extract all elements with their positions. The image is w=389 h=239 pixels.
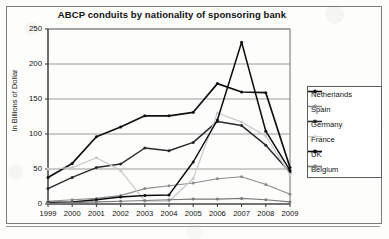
data-point: [119, 169, 122, 172]
data-point: [143, 187, 146, 190]
data-point: [143, 194, 146, 197]
data-point: [192, 161, 195, 164]
data-point: [168, 149, 171, 152]
data-point: [192, 182, 195, 185]
legend-item-netherlands[interactable]: Netherlands: [308, 87, 381, 102]
series-line-spain: [48, 177, 290, 202]
data-point: [264, 198, 267, 201]
data-point: [264, 91, 267, 94]
data-point: [71, 176, 74, 179]
data-point: [240, 121, 243, 124]
data-point: [264, 183, 267, 186]
legend-marker-circle-icon: [308, 162, 322, 171]
data-point: [47, 176, 50, 179]
data-point: [240, 124, 243, 127]
data-point: [95, 135, 98, 138]
legend-marker-square-icon: [308, 102, 322, 111]
data-point: [240, 41, 243, 44]
data-point: [289, 169, 292, 172]
data-point: [289, 193, 292, 196]
data-point: [289, 200, 292, 203]
data-point: [240, 197, 243, 200]
chart-legend: NetherlandsSpainGermanyFranceUKBelgium: [307, 86, 382, 178]
legend-item-uk[interactable]: UK: [308, 147, 381, 162]
data-point: [47, 168, 50, 171]
data-point: [71, 201, 74, 204]
data-point: [289, 173, 292, 176]
legend-marker-diamond-icon: [308, 87, 322, 96]
data-point: [240, 91, 243, 94]
data-point: [71, 166, 74, 169]
data-point: [95, 200, 98, 203]
legend-item-belgium[interactable]: Belgium: [308, 162, 381, 177]
data-point: [119, 200, 122, 203]
data-point: [192, 177, 195, 180]
data-point: [240, 175, 243, 178]
data-point: [47, 187, 50, 190]
chart-screenshot: ABCP conduits by nationality of sponsori…: [0, 0, 389, 239]
data-point: [95, 156, 98, 159]
data-point: [192, 198, 195, 201]
data-point: [71, 162, 74, 165]
data-point: [264, 144, 267, 147]
data-point: [216, 198, 219, 201]
data-point: [143, 199, 146, 202]
data-point: [168, 184, 171, 187]
data-point: [216, 112, 219, 115]
data-point: [264, 135, 267, 138]
legend-marker-cross-icon: [308, 132, 322, 141]
data-point: [143, 114, 146, 117]
data-point: [192, 141, 195, 144]
data-point: [119, 126, 122, 129]
legend-item-france[interactable]: France: [308, 132, 381, 147]
data-point: [168, 198, 171, 201]
series-line-france: [48, 113, 290, 201]
data-point: [143, 147, 146, 150]
data-point: [168, 193, 171, 196]
legend-marker-triangle-icon: [308, 117, 322, 126]
data-point: [119, 196, 122, 199]
data-point: [216, 82, 219, 85]
legend-marker-star-icon: [308, 147, 322, 156]
data-point: [192, 111, 195, 114]
data-point: [95, 166, 98, 169]
data-point: [119, 163, 122, 166]
series-line-germany: [48, 121, 290, 188]
legend-item-germany[interactable]: Germany: [308, 117, 381, 132]
data-point: [47, 202, 50, 205]
series-line-uk: [48, 42, 290, 202]
data-point: [216, 119, 219, 122]
data-point: [168, 114, 171, 117]
data-point: [216, 177, 219, 180]
data-point: [264, 130, 267, 133]
legend-item-spain[interactable]: Spain: [308, 102, 381, 117]
